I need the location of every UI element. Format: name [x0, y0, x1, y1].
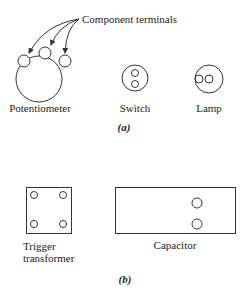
potentiometer-terminal-3 — [59, 55, 71, 67]
trigger-transformer-symbol — [27, 188, 72, 234]
lamp-terminal-2 — [205, 75, 213, 83]
trigger-transformer-terminal-4 — [60, 221, 67, 228]
trigger-transformer-terminal-1 — [31, 192, 38, 199]
capacitor-terminal-1 — [192, 198, 202, 208]
lamp-label: Lamp — [196, 102, 222, 114]
lamp-terminal-1 — [195, 75, 203, 83]
switch-terminal-2 — [132, 81, 139, 88]
trigger-transformer-terminal-3 — [31, 221, 38, 228]
capacitor-terminal-2 — [192, 219, 202, 229]
lamp-body — [195, 65, 223, 93]
potentiometer-terminal-1 — [18, 55, 30, 67]
potentiometer-terminal-2 — [39, 47, 51, 59]
trigger-transformer-terminal-2 — [60, 192, 67, 199]
capacitor-symbol — [116, 188, 236, 234]
switch-terminal-1 — [132, 70, 139, 77]
trigger-transformer-label-line1: Trigger — [23, 240, 56, 252]
switch-symbol — [122, 65, 148, 91]
switch-label: Switch — [120, 102, 151, 114]
caption-a: (a) — [118, 121, 131, 133]
capacitor-body — [116, 188, 236, 234]
trigger-transformer-label-line2: transformer — [23, 252, 74, 264]
potentiometer-symbol — [16, 47, 71, 102]
potentiometer-label: Potentiometer — [9, 102, 71, 114]
callout-arrows — [29, 19, 79, 53]
caption-b: (b) — [119, 273, 132, 285]
callout-label: Component terminals — [82, 13, 177, 25]
capacitor-label: Capacitor — [154, 239, 197, 251]
lamp-symbol — [195, 65, 223, 93]
